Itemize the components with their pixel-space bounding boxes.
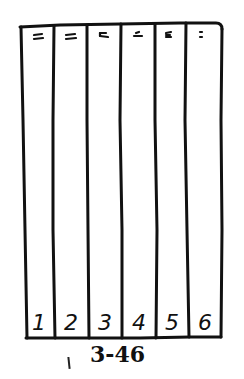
top-mark-column-2	[66, 34, 76, 39]
top-mark-column-3	[100, 33, 108, 37]
column-label-6: 6	[190, 312, 220, 334]
column-divider-5	[185, 23, 189, 337]
frame-right-edge	[221, 29, 222, 337]
column-label-3: 3	[90, 312, 120, 334]
top-mark-column-5	[166, 32, 171, 37]
column-label-1: 1	[24, 312, 54, 334]
column-divider-2	[87, 25, 89, 338]
column-label-4: 4	[124, 312, 154, 334]
column-label-2: 2	[56, 312, 86, 334]
column-divider-3	[120, 24, 122, 338]
column-divider-1	[53, 26, 55, 338]
column-divider-4	[155, 24, 157, 338]
top-mark-column-6	[200, 32, 202, 37]
column-label-5: 5	[157, 312, 187, 334]
frame-left-edge	[21, 27, 27, 338]
figure-caption: 3-46	[90, 343, 145, 365]
top-mark-column-1	[34, 34, 43, 39]
top-mark-column-4	[134, 32, 142, 36]
